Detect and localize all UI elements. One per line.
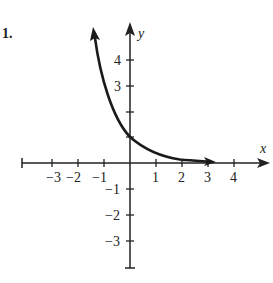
y-tick-label: −2: [105, 208, 120, 223]
y-tick-label: 4: [114, 53, 121, 68]
y-tick-label: 3: [114, 79, 121, 94]
x-axis-label: x: [259, 141, 267, 156]
x-tick-label: −2: [66, 170, 81, 185]
x-tick-label: 1: [152, 170, 159, 185]
x-tick-label: 3: [204, 170, 211, 185]
y-axis-label: y: [136, 26, 145, 41]
x-tick-label: 2: [178, 170, 185, 185]
exponential-curve: [90, 27, 216, 166]
problem-marker: 1.: [2, 26, 13, 41]
graph: 1. −3 −2 −1 1 2 3 4 x: [0, 0, 273, 283]
x-tick-label: 4: [230, 170, 237, 185]
x-tick-label: −3: [46, 170, 61, 185]
y-tick-label: −3: [105, 234, 120, 249]
y-tick-label: −1: [105, 182, 120, 197]
